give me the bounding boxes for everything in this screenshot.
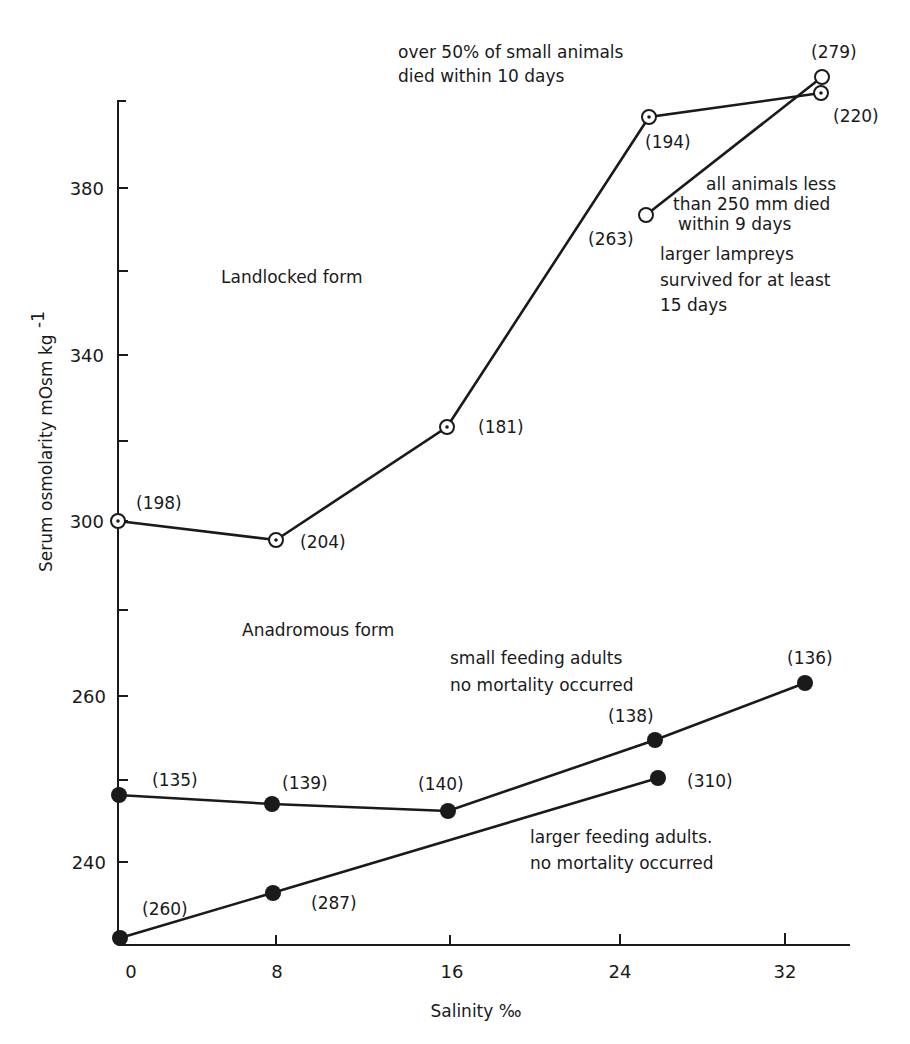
x-tick-label: 8 xyxy=(271,961,282,982)
x-axis-title: Salinity ‰ xyxy=(430,1001,521,1021)
y-tick-label: 240 xyxy=(72,852,106,873)
annotation-small: no mortality occurred xyxy=(450,675,634,695)
annotation-mid: survived for at least xyxy=(660,270,831,290)
x-tick-label: 32 xyxy=(774,961,797,982)
y-tick-label: 380 xyxy=(70,178,104,199)
y-tick-label: 340 xyxy=(70,345,104,366)
svg-text:-1: -1 xyxy=(28,311,48,328)
series-anadromous-small xyxy=(111,675,813,819)
y-tick-label: 300 xyxy=(70,511,104,532)
open-circle-marker xyxy=(639,208,653,222)
svg-text:(263): (263) xyxy=(588,229,634,249)
annotation-large: no mortality occurred xyxy=(530,853,714,873)
annotations: over 50% of small animals died within 10… xyxy=(221,42,836,873)
y-tick-label: 260 xyxy=(72,686,106,707)
x-tick-label: 16 xyxy=(441,961,464,982)
open-circle-marker xyxy=(815,70,829,84)
svg-text:(220): (220) xyxy=(833,106,879,126)
dotted-circle-marker xyxy=(111,110,656,547)
axes: 380 340 300 260 240 0 8 16 24 32 Salinit… xyxy=(28,101,850,1021)
x-tick-label: 24 xyxy=(609,961,632,982)
x-tick-label: 0 xyxy=(125,961,136,982)
annotation-mid: all animals less xyxy=(706,174,836,194)
svg-text:(204): (204) xyxy=(300,532,346,552)
anadromous-label: Anadromous form xyxy=(242,620,394,640)
svg-text:(139): (139) xyxy=(282,773,328,793)
svg-text:(194): (194) xyxy=(645,132,691,152)
annotation-mid: within 9 days xyxy=(678,214,791,234)
annotation-large: larger feeding adults. xyxy=(530,827,713,847)
annotation-small: small feeding adults xyxy=(450,648,622,668)
svg-text:(135): (135) xyxy=(152,770,198,790)
annotation-mid: larger lampreys xyxy=(660,244,794,264)
svg-text:(287): (287) xyxy=(311,893,357,913)
svg-text:(198): (198) xyxy=(136,493,182,513)
annotation-top: over 50% of small animals xyxy=(398,42,624,62)
annotation-mid: than 250 mm died xyxy=(673,194,830,214)
landlocked-label: Landlocked form xyxy=(221,267,362,287)
svg-text:(136): (136) xyxy=(787,648,833,668)
osmolarity-chart: 380 340 300 260 240 0 8 16 24 32 Salinit… xyxy=(0,0,910,1044)
y-axis-title: Serum osmolarity mOsm kg -1 xyxy=(28,311,56,572)
svg-text:(310): (310) xyxy=(687,771,733,791)
svg-text:(138): (138) xyxy=(608,706,654,726)
annotation-top: died within 10 days xyxy=(398,66,564,86)
svg-text:(260): (260) xyxy=(142,899,188,919)
svg-text:(279): (279) xyxy=(811,42,857,62)
annotation-mid: 15 days xyxy=(660,295,727,315)
svg-text:Serum osmolarity mOsm kg: Serum osmolarity mOsm kg xyxy=(36,334,56,572)
svg-text:(140): (140) xyxy=(418,774,464,794)
svg-text:(181): (181) xyxy=(478,417,524,437)
